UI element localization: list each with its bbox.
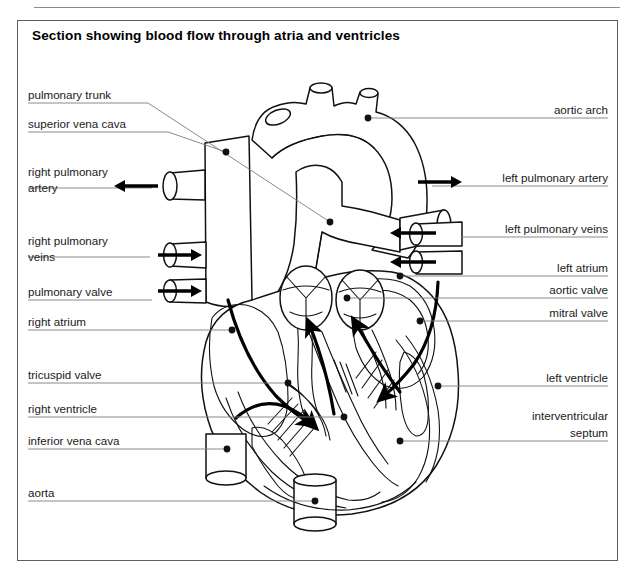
leader-dot-interventricular-septum xyxy=(397,438,404,445)
leader-dot-mitral-valve xyxy=(417,318,424,325)
leader-dot-left-atrium xyxy=(397,273,404,280)
rpa-arrow-head xyxy=(114,180,125,192)
leader-dot-aorta xyxy=(312,498,319,505)
label-aortic-arch: aortic arch xyxy=(554,103,608,116)
label-left-pulmonary-veins: left pulmonary veins xyxy=(505,222,608,235)
label-aorta: aorta xyxy=(28,486,55,499)
aorta-lumen xyxy=(294,517,336,531)
label-mitral-valve: mitral valve xyxy=(549,306,608,319)
heart-diagram: pulmonary trunksuperior vena cavaright p… xyxy=(0,0,634,581)
figure-page: Section showing blood flow through atria… xyxy=(0,0,634,581)
label-pulmonary-valve: pulmonary valve xyxy=(28,285,112,298)
label-right-pulmonary-veins: right pulmonary xyxy=(28,234,108,247)
label-inferior-vena-cava: inferior vena cava xyxy=(28,434,120,447)
label-right-pulmonary-artery-line2: artery xyxy=(28,181,58,194)
label-right-pulmonary-artery: right pulmonary xyxy=(28,165,108,178)
lpv-arrow2-head xyxy=(390,256,401,268)
label-superior-vena-cava: superior vena cava xyxy=(28,117,127,130)
labels-left: pulmonary trunksuperior vena cavaright p… xyxy=(28,88,127,499)
label-aortic-valve: aortic valve xyxy=(549,283,608,296)
label-right-atrium: right atrium xyxy=(28,315,86,328)
left-carotid-opening xyxy=(360,89,378,98)
label-left-pulmonary-artery: left pulmonary artery xyxy=(502,171,608,184)
heart-anatomy xyxy=(163,83,462,531)
leader-dot-aortic-arch xyxy=(365,115,372,122)
leader-dot-right-atrium xyxy=(229,327,236,334)
rpa-arrow xyxy=(114,180,158,192)
aorta-top-opening xyxy=(294,474,336,486)
leader-dot-tricuspid-valve xyxy=(285,380,292,387)
leader-dot-right-ventricle xyxy=(341,414,348,421)
label-left-atrium: left atrium xyxy=(557,261,608,274)
leader-dot-pulmonary-trunk xyxy=(327,219,334,226)
superior-vena-cava-shape xyxy=(205,136,252,307)
label-interventricular-septum: interventricular xyxy=(532,409,608,422)
label-interventricular-septum-line2: septum xyxy=(570,426,608,439)
inferior-vena-cava-lumen xyxy=(206,471,246,485)
label-pulmonary-trunk: pulmonary trunk xyxy=(28,88,111,101)
brachiocephalic-trunk-opening xyxy=(310,83,332,93)
leader-dot-inferior-vena-cava xyxy=(224,446,231,453)
leader-dot-superior-vena-cava xyxy=(223,149,230,156)
labels-right: aortic archleft pulmonary arteryleft pul… xyxy=(502,103,608,439)
label-tricuspid-valve: tricuspid valve xyxy=(28,368,101,381)
leader-dot-aortic-valve xyxy=(344,295,351,302)
right-pulmonary-artery-lumen xyxy=(163,172,177,200)
label-left-ventricle: left ventricle xyxy=(546,371,608,384)
label-right-ventricle: right ventricle xyxy=(28,402,97,415)
label-right-pulmonary-veins-line2: veins xyxy=(28,250,55,263)
leader-dot-left-ventricle xyxy=(435,383,442,390)
